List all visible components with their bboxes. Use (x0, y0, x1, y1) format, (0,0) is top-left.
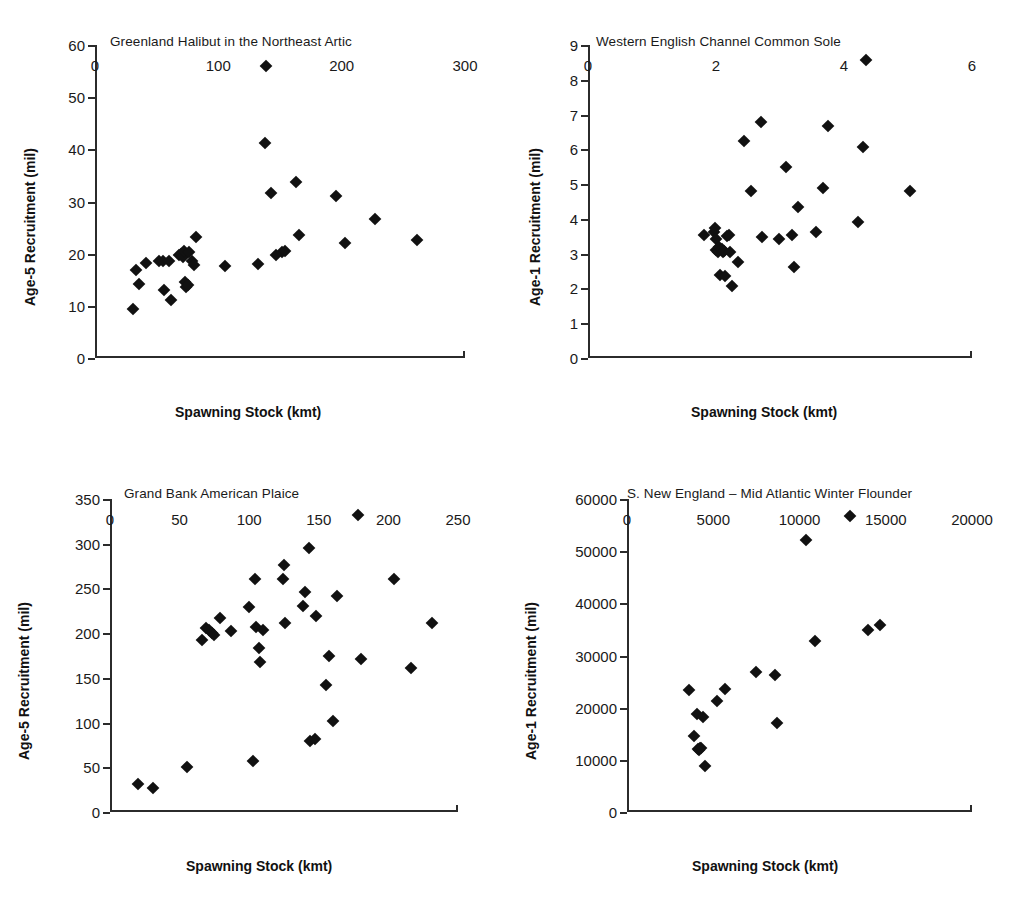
y-tick-label: 60 (68, 37, 85, 54)
y-tick-label: 60000 (575, 491, 617, 508)
x-tick-label: 50 (171, 511, 188, 528)
data-point-marker (195, 634, 208, 647)
data-point-marker (276, 573, 289, 586)
x-tick-label: 0 (106, 511, 114, 528)
panel-s-new-england-mid-atlantic-winter-flounder: S. New England – Mid Atlantic Winter Flo… (506, 454, 1013, 908)
data-point-marker (772, 233, 785, 246)
data-point-marker (147, 781, 160, 794)
y-tick-label: 30000 (575, 647, 617, 664)
y-tick-label: 20000 (575, 699, 617, 716)
x-axis-title: Spawning Stock (kmt) (692, 858, 838, 874)
data-point-marker (127, 303, 140, 316)
y-tick-label: 250 (75, 580, 100, 597)
data-point-marker (852, 216, 865, 229)
data-point-marker (259, 136, 272, 149)
data-point-marker (139, 256, 152, 269)
x-tick-label: 20000 (951, 511, 993, 528)
data-point-marker (732, 256, 745, 269)
data-point-marker (354, 653, 367, 666)
x-tick-label: 200 (329, 57, 354, 74)
data-point-marker (290, 176, 303, 189)
y-tick-label: 200 (75, 625, 100, 642)
x-tick-label: 0 (584, 57, 592, 74)
data-point-marker (247, 755, 260, 768)
data-point-marker (719, 683, 732, 696)
data-point-marker (822, 120, 835, 133)
data-point-marker (809, 635, 822, 648)
data-point-marker (756, 231, 769, 244)
y-tick-label: 5 (570, 176, 578, 193)
data-point-marker (369, 213, 382, 226)
x-tick-label: 250 (445, 511, 470, 528)
x-tick-label: 0 (91, 57, 99, 74)
y-tick-label: 40000 (575, 595, 617, 612)
data-point-marker (351, 509, 364, 522)
y-axis-title: Age-5 Recruitment (mil) (22, 148, 38, 306)
data-point-marker (737, 134, 750, 147)
data-point-marker (279, 617, 292, 630)
data-point-marker (810, 226, 823, 239)
data-point-marker (388, 573, 401, 586)
y-tick-label: 300 (75, 535, 100, 552)
data-point-marker (688, 730, 701, 743)
data-point-marker (771, 717, 784, 730)
plot-area: 60000 50000 40000 30000 20000 10000 0 0 … (627, 499, 972, 812)
data-point-marker (278, 559, 291, 572)
y-tick-label: 9 (570, 37, 578, 54)
data-point-marker (726, 280, 739, 293)
data-point-marker (243, 601, 256, 614)
x-axis-title: Spawning Stock (kmt) (186, 858, 332, 874)
y-axis-line (588, 45, 590, 358)
plot-area: 9 8 7 6 5 4 3 2 1 0 0 2 4 6 (588, 45, 972, 358)
x-tick-label: 100 (206, 57, 231, 74)
x-axis-line (588, 356, 972, 358)
y-tick-label: 3 (570, 245, 578, 262)
data-point-marker (904, 185, 917, 198)
panel-western-english-channel-common-sole: Western English Channel Common Sole Age-… (506, 0, 1013, 454)
y-tick-label: 0 (570, 350, 578, 367)
plot-area: 350 300 250 200 150 100 50 0 0 50 100 15… (110, 499, 458, 812)
data-point-marker (319, 679, 332, 692)
x-tick-label: 15000 (865, 511, 907, 528)
x-tick-label: 150 (306, 511, 331, 528)
x-tick-label: 100 (237, 511, 262, 528)
y-tick-label: 2 (570, 280, 578, 297)
data-point-marker (299, 586, 312, 599)
data-point-marker (698, 759, 711, 772)
data-point-marker (326, 714, 339, 727)
y-tick-label: 40 (68, 141, 85, 158)
data-point-marker (225, 625, 238, 638)
data-point-marker (248, 572, 261, 585)
y-tick-label: 8 (570, 71, 578, 88)
data-point-marker (251, 257, 264, 270)
data-point-marker (310, 610, 323, 623)
data-point-marker (254, 655, 267, 668)
panel-greenland-halibut: Greenland Halibut in the Northeast Artic… (0, 0, 506, 454)
data-point-marker (788, 261, 801, 274)
x-tick-label: 4 (840, 57, 848, 74)
y-tick-label: 50 (83, 759, 100, 776)
data-point-marker (873, 619, 886, 632)
x-axis-line (110, 810, 458, 812)
data-point-marker (218, 259, 231, 272)
x-tick-label: 200 (376, 511, 401, 528)
data-point-marker (180, 761, 193, 774)
y-axis-line (110, 499, 112, 812)
y-axis-title: Age-1 Recruitment (mil) (527, 148, 543, 306)
y-tick-label: 0 (77, 350, 85, 367)
data-point-marker (750, 666, 763, 679)
data-point-marker (780, 161, 793, 174)
data-point-marker (710, 695, 723, 708)
data-point-marker (303, 542, 316, 555)
figure-four-scatter-panels: Greenland Halibut in the Northeast Artic… (0, 0, 1013, 908)
data-point-marker (129, 264, 142, 277)
data-point-marker (253, 642, 266, 655)
data-point-marker (800, 534, 813, 547)
y-tick-label: 20 (68, 245, 85, 262)
data-point-marker (297, 600, 310, 613)
y-tick-label: 100 (75, 714, 100, 731)
y-tick-label: 50000 (575, 543, 617, 560)
y-tick-label: 150 (75, 669, 100, 686)
data-point-marker (404, 662, 417, 675)
data-point-marker (817, 181, 830, 194)
